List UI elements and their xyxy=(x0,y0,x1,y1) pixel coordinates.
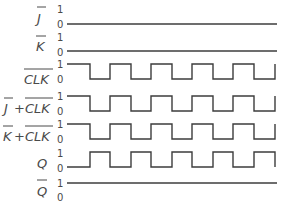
signal-label: J xyxy=(34,11,41,26)
level-high-label: 1 xyxy=(57,59,63,70)
signal-label: CLK xyxy=(24,72,50,87)
signal-label: K xyxy=(36,39,46,54)
signal-label-plus: + xyxy=(14,129,25,144)
signal-row-clk-bar: CLK 1 0 xyxy=(24,59,275,87)
level-high-label: 1 xyxy=(57,4,63,15)
signal-label: Q xyxy=(37,156,47,171)
level-low-label: 0 xyxy=(57,47,63,58)
level-high-label: 1 xyxy=(57,32,63,43)
level-low-label: 0 xyxy=(57,134,63,145)
waveform-j-bar-plus-clk-bar xyxy=(67,96,275,111)
signal-row-j-bar: J 1 0 xyxy=(34,4,277,30)
level-high-label: 1 xyxy=(57,148,63,159)
waveform-k-bar-plus-clk-bar xyxy=(67,124,275,139)
signal-label-k: K xyxy=(3,129,13,144)
signal-label: Q xyxy=(37,184,47,199)
level-low-label: 0 xyxy=(57,19,63,30)
signal-row-q: Q 1 0 xyxy=(37,148,275,174)
level-high-label: 1 xyxy=(57,119,63,130)
signal-row-k-bar-plus-clk-bar: K + CLK 1 0 xyxy=(3,119,275,145)
level-low-label: 0 xyxy=(57,106,63,117)
waveform-clk-bar xyxy=(67,64,275,79)
signal-row-j-bar-plus-clk-bar: J + CLK 1 0 xyxy=(1,91,275,117)
signal-row-k-bar: K 1 0 xyxy=(36,32,277,58)
signal-row-q-bar: Q 1 0 xyxy=(37,178,277,203)
timing-diagram: J 1 0 K 1 0 CLK 1 0 J + CLK 1 0 K + CLK … xyxy=(0,0,282,209)
level-low-label: 0 xyxy=(57,192,63,203)
level-high-label: 1 xyxy=(57,91,63,102)
signal-label-plus: + xyxy=(14,101,25,116)
level-high-label: 1 xyxy=(57,178,63,189)
level-low-label: 0 xyxy=(57,163,63,174)
waveform-q xyxy=(67,152,275,167)
signal-label-clk: CLK xyxy=(25,101,51,116)
signal-label-clk: CLK xyxy=(25,129,51,144)
signal-label-j: J xyxy=(1,101,8,116)
level-low-label: 0 xyxy=(57,74,63,85)
